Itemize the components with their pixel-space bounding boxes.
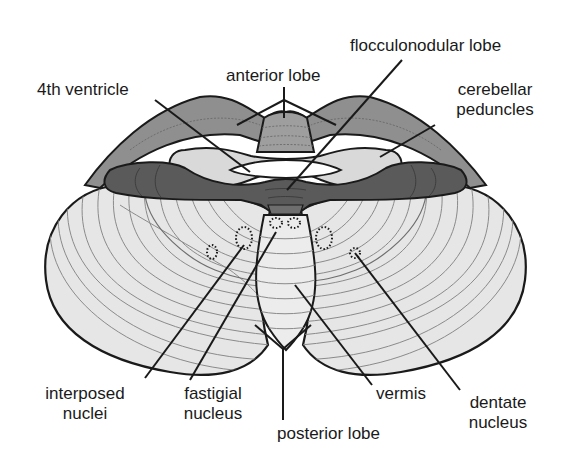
label-dentate-nucleus-line1: dentate [458,393,538,413]
cerebellum-diagram: 4th ventricle anterior lobe flocculonodu… [0,0,571,464]
label-dentate-nucleus-line2: nucleus [458,413,538,433]
label-cerebellar-peduncles-line1: cerebellar [440,80,550,100]
right-hemisphere [301,185,526,375]
label-posterior-lobe: posterior lobe [277,424,380,444]
label-cerebellar-peduncles: cerebellar peduncles [440,80,550,120]
label-interposed-nuclei-line1: interposed [30,384,140,404]
label-anterior-lobe: anterior lobe [226,66,321,86]
label-dentate-nucleus: dentate nucleus [458,393,538,433]
label-fourth-ventricle: 4th ventricle [37,80,129,100]
label-interposed-nuclei: interposed nuclei [30,384,140,424]
label-fastigial-nucleus: fastigial nucleus [168,384,258,424]
label-interposed-nuclei-line2: nuclei [30,404,140,424]
label-vermis: vermis [376,384,426,404]
label-fastigial-nucleus-line2: nucleus [168,404,258,424]
label-flocculonodular-lobe: flocculonodular lobe [350,36,501,56]
label-cerebellar-peduncles-line2: peduncles [440,100,550,120]
left-hemisphere [45,185,270,375]
label-fastigial-nucleus-line1: fastigial [168,384,258,404]
